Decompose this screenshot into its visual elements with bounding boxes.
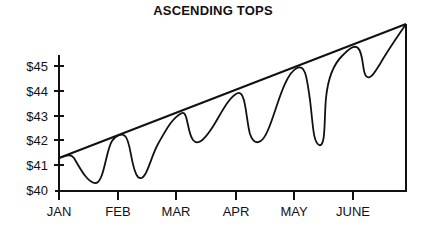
x-tick-label: APR — [223, 204, 250, 219]
price-line — [59, 24, 406, 183]
axes — [55, 24, 407, 192]
trendline — [59, 24, 406, 158]
x-ticks — [59, 191, 353, 200]
y-tick-label: $43 — [26, 109, 48, 124]
x-tick-label: MAY — [280, 204, 308, 219]
chart-container: ASCENDING TOPS $45 $44 $43 $42 $41 $40 — [0, 0, 426, 229]
x-tick-label: MAR — [162, 204, 191, 219]
y-tick-label: $40 — [26, 183, 48, 198]
x-tick-label: JAN — [47, 204, 72, 219]
y-tick-label: $45 — [26, 59, 48, 74]
x-tick-label: FEB — [105, 204, 130, 219]
y-tick-label: $42 — [26, 133, 48, 148]
y-tick-labels: $45 $44 $43 $42 $41 $40 — [26, 59, 48, 198]
x-tick-labels: JAN FEB MAR APR MAY JUNE — [47, 204, 371, 219]
y-tick-label: $41 — [26, 158, 48, 173]
x-tick-label: JUNE — [336, 204, 370, 219]
y-tick-label: $44 — [26, 84, 48, 99]
chart-plot: $45 $44 $43 $42 $41 $40 JAN FEB MAR APR … — [0, 0, 426, 229]
